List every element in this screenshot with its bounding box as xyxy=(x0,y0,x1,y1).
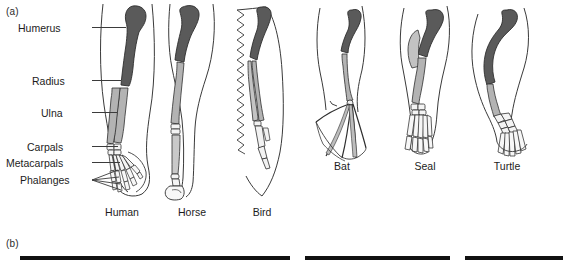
species-label-bird: Bird xyxy=(239,206,285,218)
species-label-horse: Horse xyxy=(169,206,215,218)
bone-label-ulna: Ulna xyxy=(41,107,63,119)
leader-line-carpals xyxy=(92,146,118,147)
panel-b-bar-right xyxy=(465,256,563,260)
limb-drawings xyxy=(0,0,563,261)
panel-b-bar-left xyxy=(20,256,290,260)
bird-limb-drawing xyxy=(237,7,283,196)
bone-label-radius: Radius xyxy=(32,75,65,87)
bone-label-carpals: Carpals xyxy=(27,141,63,153)
species-label-turtle: Turtle xyxy=(484,160,530,172)
species-label-human: Human xyxy=(99,206,145,218)
turtle-limb-drawing xyxy=(472,8,529,156)
species-label-seal: Seal xyxy=(402,160,448,172)
human-limb-drawing xyxy=(101,4,155,196)
bat-limb-drawing xyxy=(316,6,366,161)
leader-line-ulna xyxy=(92,112,117,113)
seal-limb-drawing xyxy=(400,6,449,154)
panel-b-bar-middle xyxy=(305,256,450,260)
bone-label-phalanges: Phalanges xyxy=(20,174,70,186)
leader-line-radius xyxy=(92,80,121,81)
comparative-limb-anatomy-figure: (a) (b) xyxy=(0,0,563,261)
species-label-bat: Bat xyxy=(319,160,365,172)
leader-line-humerus xyxy=(92,27,126,28)
leader-line-metacarpals xyxy=(92,162,120,163)
bone-label-humerus: Humerus xyxy=(18,22,61,34)
bone-label-metacarpals: Metacarpals xyxy=(6,157,63,169)
horse-limb-drawing xyxy=(165,4,214,200)
